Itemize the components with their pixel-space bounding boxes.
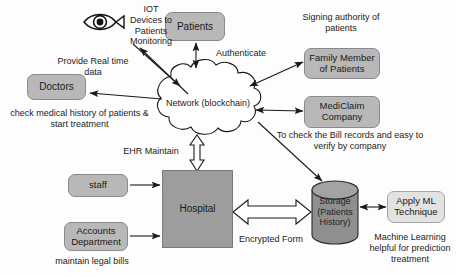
- eye-icon: [84, 15, 124, 30]
- caption-iot-line1: IOT: [144, 4, 159, 14]
- caption-authenticate-text: Authenticate: [216, 48, 266, 58]
- diagram-canvas: Patients Doctors Family Member of Patien…: [0, 0, 456, 275]
- caption-iot-line4: Monitoring: [130, 36, 172, 46]
- node-mediclaim[interactable]: MediClaim Company: [304, 96, 380, 128]
- caption-iot-line2: Devices to: [130, 15, 172, 25]
- caption-iot-line3: Patients: [135, 26, 168, 36]
- caption-check-line2: start treatment: [50, 119, 108, 129]
- caption-iot-devices: IOT Devices to Patients Monitoring: [120, 4, 182, 47]
- caption-realtime-line2: data: [84, 67, 102, 77]
- caption-bill-records: To check the Bill records and easy to ve…: [253, 130, 447, 152]
- node-apply-ml-line1: Apply ML: [396, 195, 436, 206]
- node-family-member-line2: of Patients: [320, 63, 365, 74]
- node-staff-label: staff: [89, 180, 107, 191]
- caption-check-line1: check medical history of patients &: [10, 108, 149, 118]
- node-accounts-department[interactable]: Accounts Department: [64, 222, 128, 251]
- node-network-label: Network (blockchain): [166, 98, 250, 108]
- caption-signing-line1: Signing authority of: [302, 12, 379, 22]
- node-accounts-line2: Department: [71, 236, 121, 247]
- caption-legal-bills-text: maintain legal bills: [55, 256, 129, 266]
- caption-machine-learning: Machine Learning helpful for prediction …: [366, 232, 454, 264]
- node-family-member[interactable]: Family Member of Patients: [304, 48, 380, 79]
- node-hospital-label: Hospital: [179, 203, 215, 214]
- caption-signing-line2: patients: [325, 23, 357, 33]
- arrow-realtime-data: [133, 44, 180, 86]
- caption-ml-line1: Machine Learning: [374, 232, 446, 242]
- node-family-member-line1: Family Member: [309, 52, 374, 63]
- caption-encrypted-form: Encrypted Form: [225, 234, 317, 245]
- storage-cylinder-shape: [312, 181, 358, 244]
- caption-authenticate: Authenticate: [206, 48, 276, 59]
- caption-encrypted-text: Encrypted Form: [239, 234, 303, 244]
- node-mediclaim-line2: Company: [322, 111, 363, 122]
- node-patients-label: Patients: [177, 21, 213, 32]
- caption-check-medical-history: check medical history of patients & star…: [2, 108, 157, 130]
- caption-bill-line1: To check the Bill records and easy to: [277, 130, 424, 140]
- caption-ehr-maintain: EHR Maintain: [116, 146, 186, 157]
- caption-provide-realtime-data: Provide Real time data: [48, 56, 138, 78]
- node-doctors-label: Doctors: [39, 81, 73, 92]
- node-mediclaim-line1: MediClaim: [320, 100, 365, 111]
- caption-ehr-text: EHR Maintain: [123, 146, 179, 156]
- node-network[interactable]: Network (blockchain): [160, 95, 256, 111]
- node-accounts-line1: Accounts: [76, 225, 115, 236]
- caption-ml-line2: helpful for prediction: [369, 243, 450, 253]
- block-arrow-encrypted: [233, 200, 311, 224]
- caption-signing-authority: Signing authority of patients: [276, 12, 406, 34]
- node-staff[interactable]: staff: [68, 174, 128, 197]
- arrow-network-family: [250, 62, 303, 86]
- arrow-network-mediclaim: [256, 110, 303, 111]
- caption-ml-line3: treatment: [391, 254, 429, 264]
- node-apply-ml-line2: Technique: [394, 206, 437, 217]
- node-apply-ml[interactable]: Apply ML Technique: [387, 191, 445, 223]
- caption-maintain-legal-bills: maintain legal bills: [32, 256, 152, 267]
- caption-realtime-line1: Provide Real time: [57, 56, 128, 66]
- arrow-network-to-doctors: [90, 93, 162, 99]
- caption-bill-line2: verify by company: [314, 141, 387, 151]
- block-arrow-ehr: [190, 135, 204, 171]
- node-doctors[interactable]: Doctors: [27, 74, 86, 100]
- node-hospital[interactable]: Hospital: [162, 170, 233, 248]
